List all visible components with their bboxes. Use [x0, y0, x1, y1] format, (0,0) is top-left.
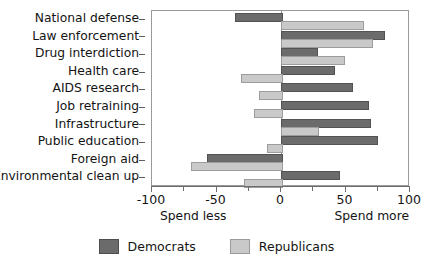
bar-republicans-8: [191, 162, 283, 171]
legend-item-democrats[interactable]: Democrats: [99, 239, 196, 254]
bar-republicans-6: [281, 127, 319, 136]
category-tick-6: [139, 124, 145, 125]
category-label-8: Foreign aid: [71, 151, 139, 169]
category-tick-2: [139, 54, 145, 55]
category-label-3: Health care: [68, 63, 139, 81]
axis-note-right: Spend more: [334, 209, 409, 223]
legend-label-1: Republicans: [259, 239, 335, 254]
x-tick-minor--75: [183, 186, 184, 191]
bar-republicans-4: [259, 91, 283, 100]
category-label-7: Public education: [38, 133, 139, 151]
bar-republicans-7: [267, 144, 283, 153]
category-label-5: Job retraining: [56, 98, 139, 116]
spending-preferences-chart: National defenseLaw enforcementDrug inte…: [0, 0, 433, 264]
bar-democrats-0: [235, 13, 283, 22]
x-tick-minor-75: [377, 186, 378, 191]
bar-republicans-0: [281, 21, 364, 30]
x-tick-label-100: 100: [397, 192, 421, 207]
category-tick-3: [139, 72, 145, 73]
category-tick-9: [139, 177, 145, 178]
chart-legend: DemocratsRepublicans: [0, 235, 433, 257]
bar-republicans-5: [254, 109, 283, 118]
category-tick-4: [139, 89, 145, 90]
bar-republicans-3: [241, 74, 283, 83]
x-tick-minor--25: [248, 186, 249, 191]
bar-democrats-7: [281, 136, 378, 145]
category-label-1: Law enforcement: [32, 28, 139, 46]
bar-republicans-9: [244, 179, 283, 188]
x-tick-label-50: 50: [337, 192, 353, 207]
category-label-2: Drug interdiction: [35, 45, 139, 63]
legend-swatch-icon-dem: [99, 239, 119, 254]
bar-republicans-2: [281, 56, 345, 65]
bar-democrats-9: [281, 171, 340, 180]
bar-republicans-1: [281, 39, 373, 48]
category-tick-1: [139, 36, 145, 37]
x-tick-minor-25: [312, 186, 313, 191]
bar-democrats-5: [281, 101, 369, 110]
bar-democrats-4: [281, 83, 353, 92]
category-label-9: Environmental clean up: [0, 168, 139, 186]
category-label-4: AIDS research: [53, 80, 139, 98]
category-label-6: Infrastructure: [55, 116, 139, 134]
category-tick-5: [139, 107, 145, 108]
category-axis: National defenseLaw enforcementDrug inte…: [0, 10, 145, 186]
category-tick-7: [139, 142, 145, 143]
plot-area: [151, 10, 409, 186]
axis-note-left: Spend less: [160, 209, 226, 223]
bar-democrats-3: [281, 66, 335, 75]
x-tick-label--100: -100: [137, 192, 165, 207]
legend-item-republicans[interactable]: Republicans: [230, 239, 335, 254]
x-tick-label--50: -50: [205, 192, 225, 207]
x-tick-label-0: 0: [276, 192, 284, 207]
legend-swatch-icon-rep: [230, 239, 250, 254]
category-tick-8: [139, 160, 145, 161]
category-tick-0: [139, 19, 145, 20]
category-label-0: National defense: [35, 10, 139, 28]
legend-label-0: Democrats: [128, 239, 196, 254]
